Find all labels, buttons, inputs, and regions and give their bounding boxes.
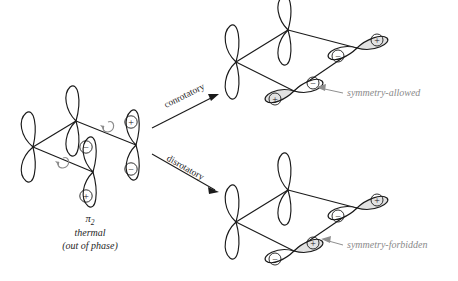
sign-right-top: + bbox=[128, 117, 134, 128]
lobe-top-upper bbox=[66, 86, 79, 121]
bot-orbital-right-rotated: + − bbox=[328, 194, 388, 222]
reactant-orbital-front: − + bbox=[80, 137, 96, 207]
product-disrotatory-structure: + − + − symmetry-forbidden bbox=[225, 153, 427, 265]
bot-lobe-left-upper bbox=[225, 185, 239, 222]
top-lobe-left-lower bbox=[225, 62, 239, 99]
rotation-arrow-upper bbox=[100, 122, 114, 132]
reactant-orbital-left bbox=[21, 112, 35, 182]
top-sign-front-upper: − bbox=[310, 78, 316, 89]
reactant-orbital-label: π2 bbox=[85, 213, 94, 227]
bot-bond-b bbox=[288, 190, 357, 208]
reactant-structure: − + + − π2 bbox=[21, 86, 139, 252]
label-symmetry-forbidden: symmetry-forbidden bbox=[347, 239, 428, 250]
reactant-caption-thermal: thermal bbox=[74, 227, 105, 238]
top-bond-b bbox=[288, 30, 357, 48]
sign-right-bottom: − bbox=[128, 164, 134, 175]
reactant-caption-phase: (out of phase) bbox=[62, 240, 118, 252]
bot-lobe-right-upper bbox=[357, 196, 388, 209]
bot-bond-c bbox=[236, 222, 294, 251]
orbital-symmetry-figure: − + + − π2 bbox=[0, 0, 458, 281]
bot-orbital-back bbox=[278, 153, 291, 225]
label-symmetry-allowed: symmetry-allowed bbox=[347, 87, 421, 98]
top-sign-right-upper: + bbox=[374, 35, 380, 46]
bot-sign-front-lower: − bbox=[272, 254, 278, 265]
bot-sign-right-upper: + bbox=[374, 195, 380, 206]
product-conrotatory-structure: − + + − symmetry-allowed bbox=[225, 0, 421, 105]
top-lobe-right-upper bbox=[357, 36, 388, 49]
label-disrotatory: disrotatory bbox=[165, 153, 206, 182]
top-sign-front-lower: + bbox=[272, 94, 278, 105]
lobe-left-top bbox=[21, 112, 35, 147]
callout-symmetry-allowed: symmetry-allowed bbox=[316, 84, 421, 98]
reactant-orbital-right: + − bbox=[125, 110, 139, 180]
bot-lobe-back-upper bbox=[278, 153, 291, 190]
bot-lobe-left-lower bbox=[225, 222, 239, 259]
diagram-canvas: − + + − π2 bbox=[0, 0, 458, 281]
top-sign-right-lower: − bbox=[335, 51, 341, 62]
bot-sign-front-upper: + bbox=[310, 238, 316, 249]
lobe-left-bottom bbox=[21, 147, 35, 182]
top-lobe-left-upper bbox=[225, 25, 239, 62]
reaction-arrow-conrotatory: conrotatory bbox=[152, 81, 219, 128]
top-lobe-back-upper bbox=[278, 0, 291, 30]
top-orbital-right-rotated: + − bbox=[328, 34, 388, 62]
sign-front-bottom: + bbox=[83, 191, 89, 202]
top-bond-c bbox=[236, 62, 294, 91]
label-conrotatory: conrotatory bbox=[162, 81, 206, 110]
callout-symmetry-forbidden: symmetry-forbidden bbox=[321, 236, 428, 250]
bot-sign-right-lower: − bbox=[335, 211, 341, 222]
sign-front-top: − bbox=[83, 142, 89, 153]
reaction-arrow-disrotatory: disrotatory bbox=[152, 153, 219, 194]
